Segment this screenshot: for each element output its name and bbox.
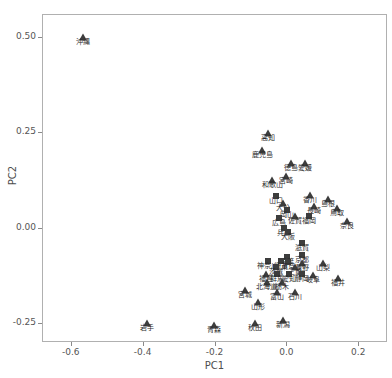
x-tick-mark [143,342,144,346]
point-label: 新潟 [276,321,290,329]
point-label: 徳島 [284,164,298,172]
point-label: 沖縄 [76,38,90,46]
point-label: 鳥取 [330,209,344,217]
x-tick-label: 0.2 [336,347,380,357]
point-label: 奈良 [340,222,354,230]
point-label: 鹿児島 [252,151,273,159]
point-label: 佐賀 [288,217,302,225]
y-tick-label: 0.00 [0,222,36,232]
point-label: 青森 [207,326,221,334]
x-tick-mark [215,342,216,346]
pca-scatter-figure: PC2 PC1 0.500.250.00-0.25-0.6-0.4-0.20.0… [0,0,392,378]
y-tick-label: 0.25 [0,126,36,136]
y-tick-label: 0.50 [0,31,36,41]
y-axis-label: PC2 [7,146,18,206]
point-label: 大阪 [281,233,295,241]
point-label: 秋田 [248,324,262,332]
x-tick-mark [358,342,359,346]
plot-area: 沖縄高知鹿児島徳島愛媛和歌山宮崎山口大分岡山香川長崎島根鳥取広島佐賀福岡奈良兵庫… [42,14,387,342]
point-label: 福井 [331,279,345,287]
point-label: 山梨 [316,264,330,272]
point-label: 富山 [270,293,284,301]
point-label: 高知 [261,134,275,142]
x-tick-label: -0.6 [49,347,93,357]
x-tick-mark [286,342,287,346]
x-tick-label: 0.0 [264,347,308,357]
point-label: 岩手 [140,324,154,332]
y-tick-label: -0.25 [0,317,36,327]
x-tick-label: -0.2 [193,347,237,357]
x-axis-label: PC1 [42,360,387,371]
point-label: 石川 [288,293,302,301]
point-label: 宮崎 [279,177,293,185]
x-tick-label: -0.4 [121,347,165,357]
point-label: 宮城 [238,291,252,299]
point-label: 愛媛 [298,164,312,172]
point-label: 山形 [251,303,265,311]
point-label: 岐阜 [306,276,320,284]
point-label: 福岡 [302,217,316,225]
x-tick-mark [71,342,72,346]
